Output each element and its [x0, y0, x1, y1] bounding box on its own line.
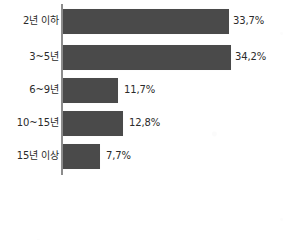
category-label: 15년 이상	[0, 151, 59, 161]
bar	[63, 78, 118, 103]
bar-value-label: 11,7%	[124, 85, 155, 95]
bar-chart: 2년 이하 33,7% 3~5년 34,2% 6~9년 11,7% 10~15년…	[0, 0, 280, 186]
bar-value-label: 7,7%	[106, 151, 131, 161]
bar	[63, 144, 100, 169]
category-label: 3~5년	[0, 52, 59, 62]
bar-value-label: 33,7%	[233, 16, 264, 26]
category-label: 6~9년	[0, 85, 59, 95]
bar	[63, 111, 123, 136]
bar-value-label: 12,8%	[129, 118, 160, 128]
bar-value-label: 34,2%	[235, 52, 266, 62]
bar	[63, 9, 229, 34]
category-label: 10~15년	[0, 118, 59, 128]
bar	[63, 45, 231, 70]
category-label: 2년 이하	[0, 16, 59, 26]
